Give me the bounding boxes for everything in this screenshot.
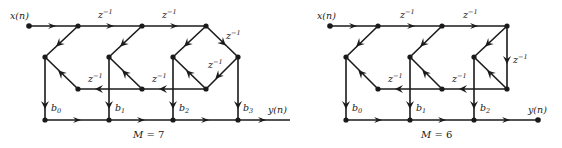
coefficient-b1: b1 — [115, 102, 125, 115]
reverse-delay-line: z−1 z−1 — [45, 57, 206, 93]
delay-label: z−1 — [87, 72, 103, 84]
coefficient-b3: b3 — [243, 102, 253, 115]
coefficient-b1: b1 — [416, 102, 426, 115]
top-delay-line: z−1 z−1 — [330, 8, 507, 29]
forward-branches: z−1 — [346, 26, 528, 89]
forward-branches: z−1 z−1 — [45, 26, 241, 89]
input-label: x(n) — [10, 10, 29, 21]
coefficient-b2: b2 — [179, 102, 189, 115]
coefficient-b0: b0 — [352, 102, 362, 115]
flow-graph-m6: x(n) z−1 z−1 z−1 z−1 — [317, 8, 547, 140]
reverse-delay-line: z−1 z−1 — [346, 57, 507, 93]
delay-label: z−1 — [225, 29, 241, 41]
delay-label: z−1 — [207, 58, 223, 70]
delay-label: z−1 — [462, 8, 478, 20]
signal-flow-diagrams: x(n) z−1 z−1 z−1 z−1 — [0, 0, 562, 148]
delay-label: z−1 — [512, 53, 528, 65]
flow-graph-m7: x(n) z−1 z−1 z−1 z−1 — [10, 8, 290, 140]
delay-label: z−1 — [451, 72, 467, 84]
delay-label: z−1 — [151, 72, 167, 84]
coefficient-b2: b2 — [480, 102, 490, 115]
delay-label: z−1 — [399, 8, 415, 20]
output-line: y(n) — [346, 104, 547, 123]
output-label: y(n) — [267, 104, 287, 115]
caption-m6: M = 6 — [420, 129, 452, 140]
top-delay-line: z−1 z−1 — [29, 8, 206, 29]
output-label: y(n) — [527, 104, 547, 115]
delay-label: z−1 — [387, 72, 403, 84]
delay-label: z−1 — [161, 8, 177, 20]
caption-m7: M = 7 — [132, 129, 164, 140]
output-line: y(n) — [45, 104, 290, 123]
coefficient-b0: b0 — [51, 102, 61, 115]
input-label: x(n) — [317, 10, 336, 21]
delay-label: z−1 — [97, 8, 113, 20]
